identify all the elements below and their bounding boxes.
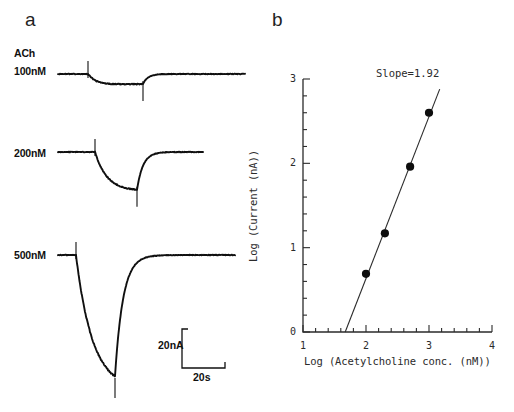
data-point [406,163,414,171]
y-tick-label: 0 [290,327,296,337]
axis-ticks [303,79,492,332]
y-tick-label: 2 [290,158,296,168]
regression-line [345,89,440,332]
x-tick-label: 2 [363,341,369,351]
x-tick-label: 3 [426,341,432,351]
figure-root: a ACh 100nM 200nM 500nM 20nA 20s b Slope… [0,0,514,412]
x-tick-label: 1 [300,341,306,351]
fit-line [345,89,440,332]
axis-frame [303,79,492,332]
y-tick-label: 3 [290,74,296,84]
panel-b-plot [0,0,514,412]
plot-axes [303,79,492,332]
data-point [362,270,370,278]
x-tick-label: 4 [489,341,495,351]
y-tick-label: 1 [290,243,296,253]
data-point [381,229,389,237]
data-point [425,109,433,117]
